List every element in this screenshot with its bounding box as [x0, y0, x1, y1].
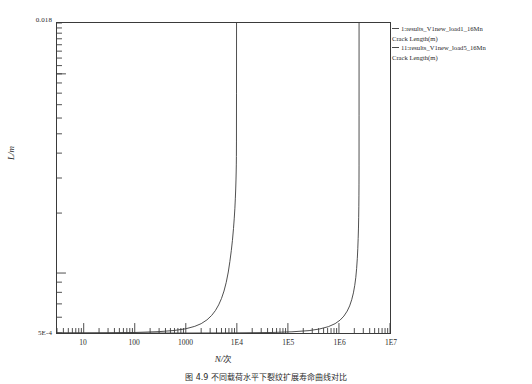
- series-line-2: [57, 23, 359, 333]
- legend-entry-row: 11:results_V1new_load5_16Mn: [392, 43, 530, 53]
- y-axis-min-label: 5E-4: [18, 329, 52, 337]
- figure-caption: 图 4.9 不同载荷水平下裂纹扩展寿命曲线对比: [0, 372, 532, 384]
- x-axis-title: N/次: [56, 352, 391, 364]
- figure-container: 0.018 5E-4 1010010001E41E51E61E7 N/次 L/m…: [0, 0, 532, 384]
- x-axis-tick-label: 1E5: [282, 338, 294, 347]
- x-axis-tick-label: 1E4: [231, 338, 243, 347]
- legend-line-swatch-icon: [392, 47, 399, 48]
- legend-series-sublabel: Crack Length(m): [392, 34, 530, 44]
- legend-entry[interactable]: 11:results_V1new_load5_16MnCrack Length(…: [392, 43, 530, 62]
- legend-line-swatch-icon: [392, 28, 399, 29]
- x-axis-title-unit: 次: [223, 354, 232, 364]
- y-axis-ticks: [57, 23, 66, 333]
- x-axis-title-symbol: N/: [215, 354, 224, 364]
- y-axis-title: L/m: [6, 146, 16, 160]
- data-series-group: [57, 23, 359, 333]
- x-axis-tick-label: 1E6: [334, 338, 346, 347]
- series-line-1: [57, 23, 237, 333]
- x-axis-tick-label: 100: [129, 338, 140, 347]
- legend-series-sublabel: Crack Length(m): [392, 53, 530, 63]
- x-axis-tick-label: 1E7: [385, 338, 397, 347]
- legend-series-label: 1:results_V1new_load1_16Mn: [401, 24, 483, 34]
- y-axis-max-label: 0.018: [18, 16, 52, 24]
- x-axis-tick-labels: 1010010001E41E51E61E7: [56, 338, 391, 350]
- x-axis-ticks: [57, 323, 390, 333]
- chart-legend: 1:results_V1new_load1_16MnCrack Length(m…: [392, 24, 530, 62]
- legend-series-label: 11:results_V1new_load5_16Mn: [401, 43, 486, 53]
- legend-entry-row: 1:results_V1new_load1_16Mn: [392, 24, 530, 34]
- plot-svg: [57, 23, 390, 333]
- plot-area: [56, 22, 391, 334]
- x-axis-tick-label: 10: [79, 338, 87, 347]
- x-axis-tick-label: 1000: [178, 338, 193, 347]
- legend-entry[interactable]: 1:results_V1new_load1_16MnCrack Length(m…: [392, 24, 530, 43]
